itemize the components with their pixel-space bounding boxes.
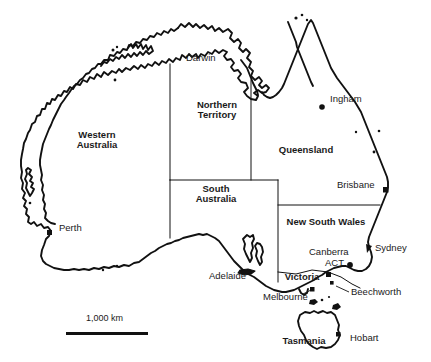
state-label-wa-line2: Australia xyxy=(62,140,132,150)
state-label-tasmania: Tasmania xyxy=(266,336,342,346)
shark-bay-detail xyxy=(25,168,34,196)
islet-nw-2 xyxy=(116,46,118,48)
islet-nw-3 xyxy=(114,79,117,82)
state-label-victoria: Victoria xyxy=(279,272,325,282)
state-label-sa-line2: Australia xyxy=(181,194,251,204)
state-label-new-south-wales: New South Wales xyxy=(271,217,381,227)
city-label-darwin: Darwin xyxy=(186,53,216,63)
city-dot-acts-square xyxy=(326,272,331,277)
city-label-beechworth: Beechworth xyxy=(351,287,401,297)
cape-york-peninsula xyxy=(288,22,313,86)
city-dot-brisbane xyxy=(383,187,389,193)
state-label-nsw-line1: New South Wales xyxy=(271,217,381,227)
city-label-adelaide: Adelaide xyxy=(209,271,246,281)
state-label-western-australia: Western Australia xyxy=(62,130,132,151)
city-label-hobart: Hobart xyxy=(350,333,379,343)
islet-sw-1 xyxy=(29,202,32,205)
leader-beechworth xyxy=(336,286,349,292)
city-label-brisbane: Brisbane xyxy=(337,180,375,190)
state-label-tas-line1: Tasmania xyxy=(266,336,342,346)
islet-reef-2 xyxy=(378,130,381,133)
state-label-south-australia: South Australia xyxy=(181,184,251,205)
islet-ne-2 xyxy=(301,14,304,17)
scale-label: 1,000 km xyxy=(86,314,123,324)
city-label-perth: Perth xyxy=(59,223,82,233)
flinders-island xyxy=(332,303,341,310)
islet-vic-1 xyxy=(321,299,324,302)
islet-south-2 xyxy=(102,269,104,271)
city-label-ingham: Ingham xyxy=(330,94,362,104)
city-label-act: ACT xyxy=(325,258,344,268)
state-label-qld-line1: Queensland xyxy=(266,145,346,155)
city-label-melbourne: Melbourne xyxy=(263,292,308,302)
city-label-sydney: Sydney xyxy=(375,243,407,253)
state-label-queensland: Queensland xyxy=(266,145,346,155)
scale-bar xyxy=(66,332,148,335)
spencer-gulf-detail xyxy=(243,235,254,262)
city-dot-ingham xyxy=(319,104,325,110)
islet-reef-1 xyxy=(373,151,376,154)
city-dot-beechworth xyxy=(330,281,334,285)
islet-ne-1 xyxy=(294,16,297,19)
state-label-northern-territory: Northern Territory xyxy=(182,100,252,121)
bass-strait-islands xyxy=(309,299,318,305)
australia-map: Western Australia Northern Territory Que… xyxy=(0,0,431,362)
city-dot-perth xyxy=(47,230,52,235)
city-dot-canberra-act xyxy=(347,262,353,268)
islet-reef-3 xyxy=(355,131,357,133)
city-label-canberra: Canberra xyxy=(309,247,349,257)
yorke-peninsula-detail xyxy=(255,243,263,265)
state-label-vic-line1: Victoria xyxy=(279,272,325,282)
islet-nw-1 xyxy=(112,49,115,52)
state-label-nt-line2: Territory xyxy=(182,110,252,120)
city-dot-melbourne xyxy=(310,287,315,292)
islet-vic-2 xyxy=(328,296,330,298)
islet-south-1 xyxy=(116,265,118,267)
islet-ne-3 xyxy=(306,19,308,21)
kimberley-coast-detail xyxy=(40,28,178,224)
kimberley-jagged-detail xyxy=(101,44,153,66)
